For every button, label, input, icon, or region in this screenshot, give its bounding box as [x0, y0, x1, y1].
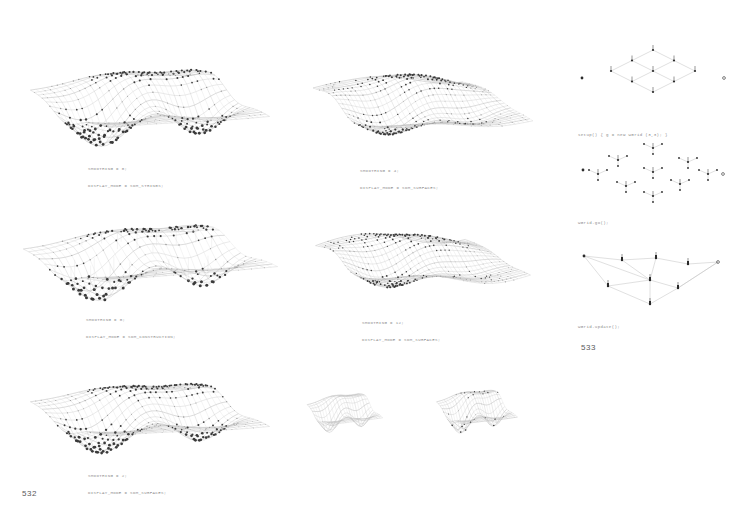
caption-line: DISPLAY_MODE = SDM_CONSTRUCTION;: [86, 335, 283, 341]
caption-line: setup() { g = new WGrid (3,3); }: [578, 133, 728, 139]
caption-line: SMOOTHING = 2;: [88, 474, 280, 480]
mesh-thumbnail-a: [300, 368, 390, 438]
mesh-surface-strings: [20, 28, 280, 150]
diagram-lattice: setup() { g = new WGrid (3,3); }: [578, 40, 728, 150]
mesh-thumbnail-b: [432, 365, 522, 437]
page-number-right: 533: [581, 343, 596, 352]
caption-line: SMOOTHING = 4;: [360, 169, 548, 175]
figure-top-left: SMOOTHING = 0; DISPLAY_MODE = SDM_STRING…: [20, 28, 280, 201]
mesh-surface-smooth12: [298, 190, 548, 305]
figure-mid-left-canvas: [18, 185, 283, 303]
figure-mid-mid: SMOOTHING = 12; DISPLAY_MODE = SDM_SURFA…: [298, 190, 548, 355]
wgrid-update-svg: [578, 248, 728, 310]
caption-line: SMOOTHING = 0;: [88, 167, 280, 173]
figure-top-mid: SMOOTHING = 4; DISPLAY_MODE = SDM_SURFAC…: [298, 28, 548, 203]
caption-line: DISPLAY_MODE = SDM_SURFACES;: [88, 491, 280, 497]
caption-line: SMOOTHING = 12;: [362, 321, 548, 327]
figure-mid-mid-caption: SMOOTHING = 12; DISPLAY_MODE = SDM_SURFA…: [362, 310, 548, 355]
wgrid-exploded-svg: [578, 140, 728, 206]
figure-mid-left: SMOOTHING = 0; DISPLAY_MODE = SDM_CONSTR…: [18, 185, 283, 352]
figure-mid-mid-canvas: [298, 190, 548, 305]
mesh-surface-construction: [18, 185, 283, 303]
figure-bot-left-caption: SMOOTHING = 2; DISPLAY_MODE = SDM_SURFAC…: [88, 463, 280, 508]
diagram-update-caption: WGrid.update();: [578, 314, 728, 342]
page-number-left: 532: [22, 489, 37, 498]
figure-top-left-canvas: [20, 28, 280, 150]
mesh-surface-smooth4: [298, 28, 548, 153]
diagram-update: WGrid.update();: [578, 248, 728, 342]
figure-bot-left-canvas: [20, 345, 280, 457]
caption-line: SMOOTHING = 0;: [86, 318, 283, 324]
wgrid-lattice-svg: [578, 40, 728, 118]
diagram-exploded: WGrid.go();: [578, 140, 728, 238]
caption-line: DISPLAY_MODE = SDM_SURFACES;: [362, 338, 548, 344]
caption-line: WGrid.update();: [578, 325, 728, 331]
figure-bot-thumb-a: [300, 368, 390, 438]
figure-top-mid-canvas: [298, 28, 548, 153]
book-page-spread: SMOOTHING = 0; DISPLAY_MODE = SDM_STRING…: [0, 0, 753, 509]
caption-line: WGrid.go();: [578, 221, 728, 227]
figure-bot-left: SMOOTHING = 2; DISPLAY_MODE = SDM_SURFAC…: [20, 345, 280, 508]
figure-bot-thumb-b: [432, 365, 522, 437]
mesh-surface-smooth2: [20, 345, 280, 457]
diagram-exploded-caption: WGrid.go();: [578, 210, 728, 238]
